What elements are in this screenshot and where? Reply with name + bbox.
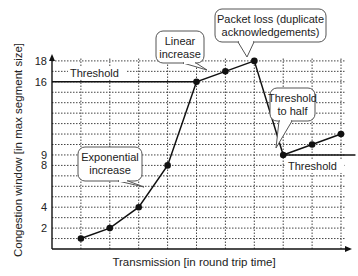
annotation-text: Exponential <box>81 151 139 163</box>
data-point <box>193 79 200 86</box>
annotation-text: increase <box>159 48 201 60</box>
annotation-text: Packet loss (duplicate <box>217 13 324 25</box>
annotation-text: Linear <box>165 35 196 47</box>
annotation-text: acknowledgements) <box>222 26 320 38</box>
y-tick-labels: 24891618 <box>35 55 47 234</box>
y-tick-label: 4 <box>41 201 47 213</box>
annotation-linear: Linearincrease <box>156 31 207 70</box>
y-axis-arrow-icon <box>49 54 55 61</box>
annotation-text: Threshold <box>268 92 317 104</box>
data-point <box>107 225 114 232</box>
x-axis-label: Transmission [in round trip time] <box>112 256 275 268</box>
threshold-label: Threshold <box>288 160 337 172</box>
y-axis-label: Congestion window [in max segment size] <box>12 43 24 257</box>
y-tick-label: 18 <box>35 55 47 67</box>
y-tick-label: 9 <box>41 149 47 161</box>
data-point <box>338 131 345 138</box>
data-point <box>164 162 171 169</box>
annotation-exponential: Exponentialincrease <box>78 147 144 187</box>
annotation-text: increase <box>89 164 131 176</box>
annotation-threshold-half: Thresholdto half <box>268 88 317 148</box>
y-tick-label: 16 <box>35 76 47 88</box>
threshold-label: Threshold <box>70 67 119 79</box>
y-tick-label: 8 <box>41 159 47 171</box>
annotation-packet-loss: Packet loss (duplicateacknowledgements) <box>215 9 326 57</box>
data-point <box>309 141 316 148</box>
data-point <box>78 235 85 242</box>
x-axis-arrow-icon <box>345 246 352 252</box>
annotation-text: to half <box>278 105 309 117</box>
data-point <box>251 58 258 65</box>
y-tick-label: 2 <box>41 222 47 234</box>
data-point <box>280 152 287 159</box>
data-point <box>222 68 229 75</box>
data-point <box>135 204 142 211</box>
congestion-window-chart: ThresholdThreshold 24891618 Exponentiali… <box>0 0 358 276</box>
